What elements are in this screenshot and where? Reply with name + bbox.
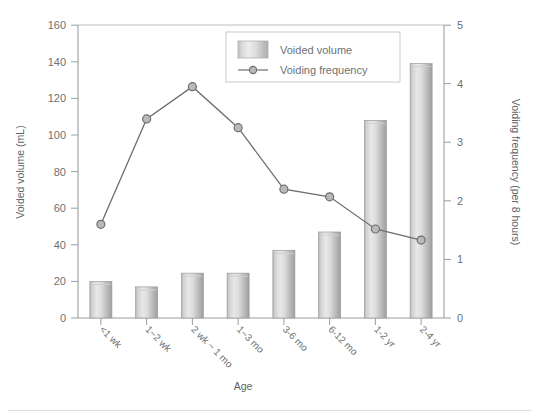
chart-legend: Voided volume Voiding frequency <box>226 32 400 82</box>
left-tick-100: 100 <box>48 129 78 141</box>
right-tick-0: 0 <box>444 312 463 324</box>
category-label: 1~2 wk <box>143 324 174 355</box>
line-data-point-marker <box>326 193 334 201</box>
left-tick-label: 0 <box>60 312 66 324</box>
left-tick-0: 0 <box>60 312 78 324</box>
line-data-point-marker <box>143 115 151 123</box>
legend-label-voided-volume: Voided volume <box>280 44 352 56</box>
bar-body <box>319 232 341 318</box>
left-tick-120: 120 <box>48 92 78 104</box>
category-label: 2 wk ~ 1 mo <box>189 324 235 370</box>
bar <box>273 250 295 318</box>
bar <box>136 287 158 318</box>
category-label: 6-12 mo <box>326 324 360 358</box>
bar <box>319 232 341 318</box>
bar <box>227 273 249 318</box>
line-data-point-marker <box>280 185 288 193</box>
bar <box>90 281 112 318</box>
line-data-point-marker <box>371 225 379 233</box>
left-tick-label: 160 <box>48 19 66 31</box>
bar-body <box>90 281 112 318</box>
bar <box>410 64 432 318</box>
category-label: <1 wk <box>97 324 124 351</box>
line-data-point-marker <box>188 83 196 91</box>
category-label: 1-2 yr <box>372 324 398 350</box>
left-tick-label: 100 <box>48 129 66 141</box>
line-data-point-marker <box>234 124 242 132</box>
right-axis-ticks: 0 1 2 3 4 5 <box>444 19 463 324</box>
category-label: 2-4 yr <box>418 324 444 350</box>
right-tick-2: 2 <box>444 195 463 207</box>
bar-body <box>136 287 158 318</box>
left-tick-140: 140 <box>48 56 78 68</box>
category-label: 1~3 mo <box>235 324 267 356</box>
left-tick-label: 120 <box>48 92 66 104</box>
right-tick-label: 1 <box>457 253 463 265</box>
right-tick-label: 3 <box>457 136 463 148</box>
left-tick-160: 160 <box>48 19 78 31</box>
bar-body <box>227 273 249 318</box>
page-bottom-divider <box>8 410 531 411</box>
left-tick-label: 20 <box>54 275 66 287</box>
left-tick-40: 40 <box>54 239 78 251</box>
left-tick-80: 80 <box>54 166 78 178</box>
category-axis-labels: <1 wk1~2 wk2 wk ~ 1 mo1~3 mo3-6 mo6-12 m… <box>97 318 444 370</box>
bar-body <box>364 120 386 318</box>
right-tick-5: 5 <box>444 19 463 31</box>
line-data-point-marker <box>97 220 105 228</box>
left-tick-label: 80 <box>54 166 66 178</box>
right-tick-3: 3 <box>444 136 463 148</box>
x-axis-title: Age <box>234 380 253 392</box>
left-axis-ticks: 0 20 40 60 80 100 <box>48 19 78 324</box>
bar-body <box>273 250 295 318</box>
right-tick-label: 2 <box>457 195 463 207</box>
legend-swatch-bar-icon <box>238 41 268 58</box>
bar-body <box>181 273 203 318</box>
left-tick-label: 140 <box>48 56 66 68</box>
bar-series-voided-volume <box>90 64 432 318</box>
right-axis-title: Voiding frequency (per 8 hours) <box>510 99 522 246</box>
left-axis-title: Voided volume (mL) <box>14 125 26 218</box>
left-tick-label: 40 <box>54 239 66 251</box>
left-tick-label: 60 <box>54 202 66 214</box>
legend-label-voiding-frequency: Voiding frequency <box>280 64 368 76</box>
legend-circle-marker-icon <box>249 66 256 73</box>
right-tick-label: 5 <box>457 19 463 31</box>
line-data-point-marker <box>417 236 425 244</box>
bar-body <box>410 64 432 318</box>
right-tick-4: 4 <box>444 78 463 90</box>
bar <box>181 273 203 318</box>
left-tick-20: 20 <box>54 275 78 287</box>
chart-figure: 0 20 40 60 80 100 <box>0 0 539 418</box>
right-tick-1: 1 <box>444 253 463 265</box>
combo-chart: 0 20 40 60 80 100 <box>0 0 539 418</box>
right-tick-label: 0 <box>457 312 463 324</box>
right-tick-label: 4 <box>457 78 463 90</box>
category-label: 3-6 mo <box>280 324 310 354</box>
bar <box>364 120 386 318</box>
left-tick-60: 60 <box>54 202 78 214</box>
